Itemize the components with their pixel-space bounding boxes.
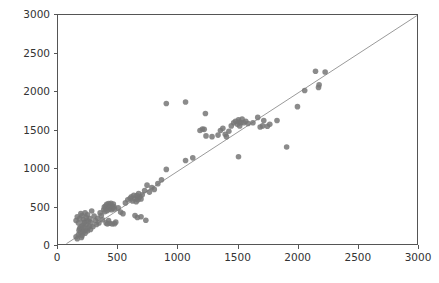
scatter-plot-figure: 050010001500200025003000 050010001500200… [0,0,439,283]
scatter-point [164,101,170,107]
scatter-point [316,82,322,88]
y-tick-label: 3000 [23,8,50,20]
x-tick-mark [358,245,359,249]
scatter-point [250,120,256,126]
scatter-point [203,133,209,139]
scatter-point [209,134,215,140]
scatter-point [144,182,150,188]
scatter-point [203,111,209,117]
scatter-point [284,144,290,150]
x-tick-mark [117,245,118,249]
y-tick-mark [54,91,58,92]
scatter-point [322,69,328,75]
scatter-point [143,217,149,223]
y-tick-mark [54,130,58,131]
x-tick-label: 3000 [405,251,432,263]
scatter-point [274,118,280,124]
x-tick-mark [57,245,58,249]
scatter-point [151,187,157,193]
scatter-point [120,211,126,217]
scatter-point [183,158,189,164]
x-tick-mark [418,245,419,249]
y-tick-label: 0 [43,239,50,251]
scatter-point [190,155,196,161]
scatter-point [81,220,87,226]
scatter-point [89,208,95,214]
scatter-point [226,128,232,134]
y-tick-label: 1500 [23,124,50,136]
scatter-point [220,125,226,131]
x-tick-label: 1500 [224,251,251,263]
scatter-point [142,188,148,194]
scatter-point [295,104,301,110]
plot-area [57,14,418,245]
scatter-point [138,214,144,220]
y-tick-label: 2000 [23,85,50,97]
scatter-point [224,134,230,140]
scatter-point [261,118,267,124]
scatter-point [267,122,273,128]
x-tick-mark [177,245,178,249]
x-tick-label: 0 [54,251,61,263]
data-layer [58,15,417,244]
scatter-point [313,68,319,74]
scatter-point [164,167,170,173]
x-tick-label: 2000 [284,251,311,263]
scatter-point [113,219,119,225]
scatter-canvas [58,15,417,244]
x-tick-mark [298,245,299,249]
scatter-point [255,115,261,121]
scatter-point [260,123,266,129]
y-tick-label: 1000 [23,162,50,174]
scatter-point [302,88,308,94]
x-tick-label: 500 [107,251,127,263]
y-tick-mark [54,168,58,169]
y-tick-label: 2500 [23,47,50,59]
x-tick-label: 2500 [344,251,371,263]
y-tick-label: 500 [30,201,50,213]
scatter-point [183,99,189,105]
x-tick-label: 1000 [164,251,191,263]
scatter-point [236,154,242,160]
scatter-point [159,177,165,183]
scatter-point [201,127,207,133]
x-tick-mark [238,245,239,249]
y-tick-mark [54,53,58,54]
y-tick-mark [54,207,58,208]
y-tick-mark [54,14,58,15]
scatter-point [245,121,251,127]
